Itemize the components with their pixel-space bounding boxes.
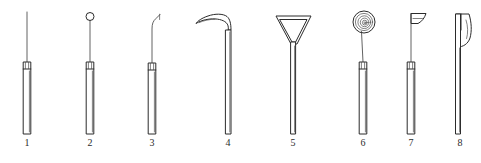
instrument-1-straight-fine-probe bbox=[23, 12, 31, 134]
instrument-3-angled-hook-explorer bbox=[148, 14, 160, 134]
instrument-6-spiral-disc-burnisher bbox=[353, 11, 375, 134]
instrument-5-triangular-head-outer bbox=[276, 16, 311, 44]
instrument-4-curved-blade bbox=[196, 14, 231, 30]
instrument-3-shaft-with-hook bbox=[152, 15, 160, 64]
instrument-label-1: 1 bbox=[15, 137, 39, 149]
instrument-2-ball-ended-probe bbox=[86, 13, 94, 135]
instrument-6-shaft bbox=[362, 32, 364, 63]
instrument-label-4: 4 bbox=[216, 137, 240, 149]
instrument-2-ring-tip bbox=[86, 13, 94, 21]
instrument-label-5: 5 bbox=[281, 137, 305, 149]
instrument-label-8: 8 bbox=[448, 137, 472, 149]
instrument-label-6: 6 bbox=[351, 137, 375, 149]
instrument-4-shaft bbox=[225, 30, 231, 134]
instrument-4-curved-blade-elevator bbox=[196, 14, 231, 134]
instrument-label-2: 2 bbox=[78, 137, 102, 149]
instrument-5-triangular-scaler bbox=[276, 16, 311, 134]
instrument-8-broad-chisel-knife bbox=[456, 14, 472, 134]
instrument-7-flag-blade-spatula bbox=[407, 14, 426, 135]
instrument-label-7: 7 bbox=[399, 137, 423, 149]
instrument-plate-figure: .ink { fill: none; stroke: #2b2b2b; stro… bbox=[0, 0, 481, 163]
instrument-label-3: 3 bbox=[140, 137, 164, 149]
